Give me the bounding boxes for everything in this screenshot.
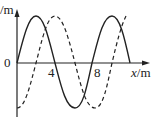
x-tick-8: 8 — [94, 65, 101, 80]
x-axis-label: x/m — [130, 65, 151, 80]
solid-wave — [17, 16, 130, 108]
x-axis-label-unit: /m — [137, 65, 151, 80]
dashed-wave — [17, 16, 126, 108]
y-axis-arrow-icon — [15, 9, 20, 17]
wave-diagram: /m 0 4 8 x/m — [0, 0, 154, 132]
origin-label: 0 — [4, 55, 11, 70]
y-axis-label: /m — [0, 2, 14, 17]
x-tick-4: 4 — [48, 65, 55, 80]
